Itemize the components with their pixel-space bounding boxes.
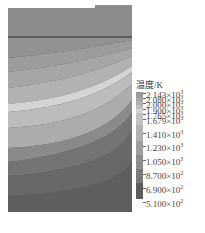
legend-tick (143, 202, 146, 203)
legend-label: 6.900×102 (146, 183, 183, 195)
legend-label: 1.050×103 (146, 155, 183, 167)
top-layer (8, 8, 132, 38)
legend-tick (143, 188, 146, 189)
legend-label: 8.700×102 (146, 169, 183, 181)
top-step (95, 5, 132, 9)
legend-label: 1.679×103 (146, 114, 183, 126)
legend-tick (143, 133, 146, 134)
legend-tick (143, 119, 146, 120)
legend-label: 5.100×102 (146, 197, 183, 209)
legend-label: 1.410×103 (146, 128, 183, 140)
legend-tick (143, 146, 146, 147)
legend-label: 1.230×103 (146, 141, 183, 153)
legend-tick (143, 160, 146, 161)
legend-colorbar (136, 92, 143, 199)
legend-tick (143, 174, 146, 175)
